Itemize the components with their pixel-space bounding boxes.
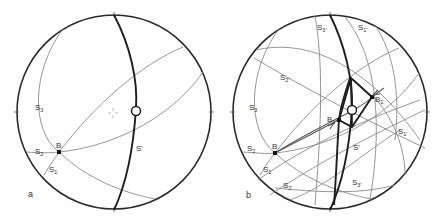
great-circle-s-prime-left-b <box>334 78 350 205</box>
label-s3-b: S3 <box>249 103 257 113</box>
point-b-a <box>57 150 61 154</box>
point-b1-b <box>337 118 341 122</box>
great-circle-right-arc-b <box>375 25 397 140</box>
point-b-b <box>273 151 277 155</box>
polygon-diagonal-b <box>351 78 352 127</box>
label-s1-top-b: S1' <box>358 23 367 33</box>
great-circle-s2-a <box>27 72 203 153</box>
stereonet-panel-b: S3' S1' S2' S3 S2 S1 S2' S3' S1' B B1' B… <box>230 12 430 212</box>
label-b-a: B <box>56 141 61 150</box>
label-s-prime-a: S' <box>136 144 143 153</box>
primitive-circle-a <box>17 15 211 209</box>
panel-label-b: b <box>246 190 251 200</box>
label-s3-top-b: S3' <box>317 23 326 33</box>
label-s-prime-b: S' <box>353 143 360 152</box>
great-circle-s3-prime-top-b <box>315 16 321 205</box>
ticks-a <box>14 12 214 212</box>
label-s2-prime-b: S2' <box>280 73 289 83</box>
label-s1-a: S1 <box>49 165 57 175</box>
label-s2-prime-low-b: S2' <box>283 181 292 191</box>
great-circle-s1-b <box>260 48 399 175</box>
pole-circle-b <box>348 106 357 115</box>
label-b1-b: B1' <box>327 115 336 125</box>
stereonet-figure: S3 S2 S1 B S' a <box>0 0 439 221</box>
great-circle-s2-prime-low-b <box>258 100 420 180</box>
label-s1-prime-right-b: S1' <box>398 127 407 137</box>
panel-label-a: a <box>28 189 33 199</box>
label-s2-a: S2 <box>35 147 43 157</box>
label-s2-b: S2 <box>247 144 255 154</box>
ticks-b <box>230 12 430 212</box>
great-circle-s1-a <box>44 47 183 175</box>
great-circle-s2-b <box>243 73 419 153</box>
label-s3-prime-low-b: S3' <box>352 178 361 188</box>
stereonet-panel-a: S3 S2 S1 B S' a <box>14 12 214 212</box>
label-s3-a: S3 <box>35 103 43 113</box>
label-b-b: B <box>272 142 277 151</box>
center-crosshair-a <box>108 108 118 118</box>
pole-circle-a <box>132 107 141 116</box>
label-s1-b: S1 <box>263 165 271 175</box>
line-b-to-b1-b <box>275 120 338 153</box>
